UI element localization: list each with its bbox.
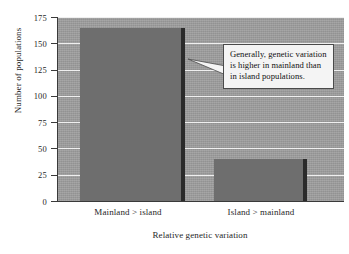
y-axis-tick-label-25: 25 [7,171,47,180]
bar-island-greater-than-mainland [214,159,303,201]
bar-mainland-greater-than-island [80,28,181,202]
x-axis-category-label-mainland: Mainland > island [63,208,193,217]
x-axis-title: Relative genetic variation [57,231,343,240]
y-axis-tick-label-100: 100 [7,92,47,101]
y-axis-tick-label-75: 75 [7,119,47,128]
bar-chart-figure: Number of populations 175 150 125 100 75… [0,0,349,254]
annotation-callout: Generally, genetic variation is higher i… [223,44,334,89]
x-axis-category-label-island: Island > mainland [196,208,326,217]
y-axis-tick-label-0: 0 [7,198,47,207]
y-axis-tick-label-150: 150 [7,40,47,49]
y-axis-tick-label-50: 50 [7,145,47,154]
y-axis-tick-label-175: 175 [7,14,47,23]
y-axis-tick-label-125: 125 [7,66,47,75]
bar-shadow [181,28,185,202]
gridline-175 [58,17,344,18]
bar-shadow [303,159,307,201]
